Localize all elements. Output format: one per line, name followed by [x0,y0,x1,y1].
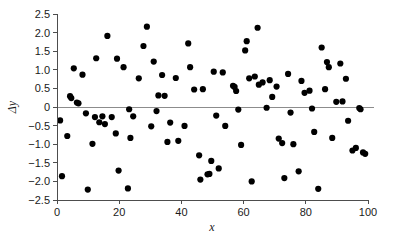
data-point [267,77,273,83]
data-point [181,123,187,129]
y-tick-label: −2.0 [28,175,50,187]
y-tick-label: 2.5 [35,8,50,20]
data-point [345,118,351,124]
data-point [306,88,312,94]
data-point [255,25,261,31]
data-point [148,123,154,129]
y-tick-label: −2.5 [28,194,50,206]
data-point [322,86,328,92]
x-axis-ticks: 020406080100 [54,200,377,218]
data-point [159,72,165,78]
data-point [153,108,159,114]
data-point [144,24,150,30]
data-point [96,119,102,125]
data-point [211,69,217,75]
data-point [191,86,197,92]
data-point [197,176,203,182]
data-point [343,76,349,82]
y-tick-label: 0 [44,101,50,113]
data-point [244,38,250,44]
data-point [115,168,121,174]
data-point [281,175,287,181]
data-point [249,178,255,184]
data-point [329,135,335,141]
data-point [187,64,193,70]
data-point [155,92,161,98]
data-point [173,75,179,81]
data-point [130,113,136,119]
x-axis-label: x [208,220,215,234]
data-point [208,158,214,164]
data-point [357,106,363,112]
y-tick-label: 2.0 [35,27,50,39]
data-point [83,110,89,116]
x-tick-label: 80 [300,206,312,218]
data-point [309,105,315,111]
data-point [220,69,226,75]
data-point [59,173,65,179]
data-point [362,151,368,157]
data-point [92,114,98,120]
data-point [298,78,304,84]
y-tick-label: −0.5 [28,120,50,132]
data-point [114,56,120,62]
data-point [64,133,70,139]
data-point [164,139,170,145]
data-point [200,86,206,92]
data-point [287,109,293,115]
y-tick-label: 1.5 [35,45,50,57]
data-point [264,105,270,111]
x-tick-label: 60 [237,206,249,218]
data-point [206,171,212,177]
data-point [246,75,252,81]
data-point [99,113,105,119]
data-point [233,88,239,94]
data-point [337,60,343,66]
data-point [213,112,219,118]
data-point [285,71,291,77]
data-point [104,33,110,39]
data-point [269,94,275,100]
data-point [85,186,91,192]
data-point [113,130,119,136]
data-point [136,75,142,81]
data-point [238,142,244,148]
y-tick-label: −1.0 [28,138,50,150]
data-point [79,72,85,78]
data-point [162,93,168,99]
plot-canvas: 2.52.01.51.00.50−0.5−1.0−1.5−2.0−2.5 020… [0,0,396,237]
y-axis-ticks: 2.52.01.51.00.50−0.5−1.0−1.5−2.0−2.5 [28,8,57,206]
data-point [68,95,74,101]
scatter-chart: 2.52.01.51.00.50−0.5−1.0−1.5−2.0−2.5 020… [0,0,396,237]
data-point [57,117,63,123]
data-points-layer [57,24,368,193]
data-point [140,43,146,49]
data-point [326,64,332,70]
data-point [196,152,202,158]
data-point [71,65,77,71]
data-point [75,100,81,106]
data-point [339,98,345,104]
data-point [93,55,99,61]
data-point [311,129,317,135]
data-point [319,44,325,50]
data-point [126,106,132,112]
data-point [125,185,131,191]
y-tick-label: 1.0 [35,64,50,76]
data-point [89,141,95,147]
data-point [290,141,296,147]
x-tick-label: 100 [359,206,377,218]
data-point [109,114,115,120]
data-point [315,186,321,192]
data-point [102,121,108,127]
data-point [120,64,126,70]
data-point [185,40,191,46]
data-point [151,59,157,65]
x-tick-label: 40 [175,206,187,218]
data-point [296,168,302,174]
data-point [353,145,359,151]
data-point [167,120,173,126]
data-point [252,73,258,79]
data-point [242,47,248,53]
data-point [235,107,241,113]
